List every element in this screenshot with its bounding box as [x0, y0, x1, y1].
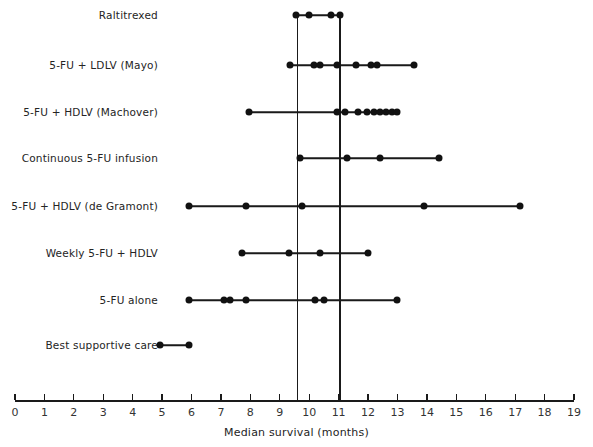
category-label: 5-FU + LDLV (Mayo) — [49, 59, 158, 71]
x-axis-tick-label: 18 — [538, 406, 552, 419]
data-point — [334, 109, 341, 116]
x-axis-tick-label: 1 — [41, 406, 48, 419]
data-point — [410, 62, 417, 69]
x-axis-tick — [161, 394, 162, 400]
x-axis-tick-label: 7 — [217, 406, 224, 419]
x-axis-tick-label: 9 — [276, 406, 283, 419]
data-point — [363, 109, 370, 116]
x-axis-tick-label: 0 — [12, 406, 19, 419]
x-axis-tick-label: 13 — [390, 406, 404, 419]
data-point — [285, 250, 292, 257]
x-axis-tick — [103, 394, 104, 400]
data-point — [185, 342, 192, 349]
data-point — [320, 297, 327, 304]
x-axis-tick-label: 3 — [100, 406, 107, 419]
x-axis-tick — [44, 394, 45, 400]
data-point — [297, 155, 304, 162]
data-point — [238, 250, 245, 257]
data-point — [337, 12, 344, 19]
x-axis-tick — [367, 394, 368, 400]
category-label: Best supportive care — [45, 339, 158, 351]
data-point — [298, 203, 305, 210]
data-point — [316, 250, 323, 257]
x-axis-tick — [338, 394, 339, 400]
data-point — [292, 12, 299, 19]
x-axis-tick — [309, 394, 310, 400]
x-axis-tick — [426, 394, 427, 400]
data-point — [365, 250, 372, 257]
x-axis-tick-label: 16 — [479, 406, 493, 419]
x-axis-tick-label: 2 — [70, 406, 77, 419]
data-point — [516, 203, 523, 210]
x-axis-tick-label: 8 — [247, 406, 254, 419]
data-point — [341, 109, 348, 116]
x-axis-tick-label: 14 — [420, 406, 434, 419]
x-axis-tick-label: 4 — [129, 406, 136, 419]
data-point — [226, 297, 233, 304]
data-point — [185, 297, 192, 304]
data-point — [316, 62, 323, 69]
category-label: 5-FU alone — [100, 294, 158, 306]
data-point — [373, 62, 380, 69]
x-axis-tick — [544, 394, 545, 400]
data-point — [353, 62, 360, 69]
data-point — [334, 62, 341, 69]
x-axis-tick — [279, 394, 280, 400]
x-axis-tick-label: 11 — [332, 406, 346, 419]
x-axis-tick — [573, 394, 574, 400]
data-point — [394, 297, 401, 304]
range-line — [300, 157, 438, 159]
data-point — [328, 12, 335, 19]
plot-area: Raltitrexed5-FU + LDLV (Mayo)5-FU + HDLV… — [0, 0, 593, 447]
x-axis-tick — [220, 394, 221, 400]
data-point — [157, 342, 164, 349]
x-axis-title: Median survival (months) — [0, 426, 593, 439]
x-axis-tick-label: 10 — [302, 406, 316, 419]
data-point — [394, 109, 401, 116]
data-point — [287, 62, 294, 69]
x-axis-tick-label: 19 — [567, 406, 581, 419]
x-axis-tick-label: 12 — [361, 406, 375, 419]
data-point — [242, 203, 249, 210]
x-axis-tick — [250, 394, 251, 400]
category-label: Continuous 5-FU infusion — [22, 152, 158, 164]
x-axis-tick — [73, 394, 74, 400]
x-axis-tick — [456, 394, 457, 400]
data-point — [420, 203, 427, 210]
range-line — [242, 252, 369, 254]
x-axis-tick-label: 15 — [449, 406, 463, 419]
data-point — [242, 297, 249, 304]
category-label: Raltitrexed — [99, 9, 158, 21]
data-point — [312, 297, 319, 304]
data-point — [435, 155, 442, 162]
data-point — [376, 155, 383, 162]
x-axis-line — [15, 400, 574, 402]
x-axis-tick — [191, 394, 192, 400]
x-axis-tick-label: 6 — [188, 406, 195, 419]
range-line — [189, 205, 520, 207]
x-axis-tick — [14, 394, 15, 400]
x-axis-tick-label: 17 — [508, 406, 522, 419]
category-label: Weekly 5-FU + HDLV — [46, 247, 158, 259]
data-point — [354, 109, 361, 116]
category-label: 5-FU + HDLV (de Gramont) — [11, 200, 158, 212]
data-point — [245, 109, 252, 116]
x-axis-tick — [485, 394, 486, 400]
data-point — [344, 155, 351, 162]
x-axis-tick — [397, 394, 398, 400]
reference-line-2 — [339, 15, 341, 400]
x-axis-tick — [515, 394, 516, 400]
x-axis-tick — [132, 394, 133, 400]
category-label: 5-FU + HDLV (Machover) — [23, 106, 158, 118]
x-axis-tick-label: 5 — [159, 406, 166, 419]
median-survival-dot-chart: Raltitrexed5-FU + LDLV (Mayo)5-FU + HDLV… — [0, 0, 593, 447]
data-point — [185, 203, 192, 210]
data-point — [306, 12, 313, 19]
